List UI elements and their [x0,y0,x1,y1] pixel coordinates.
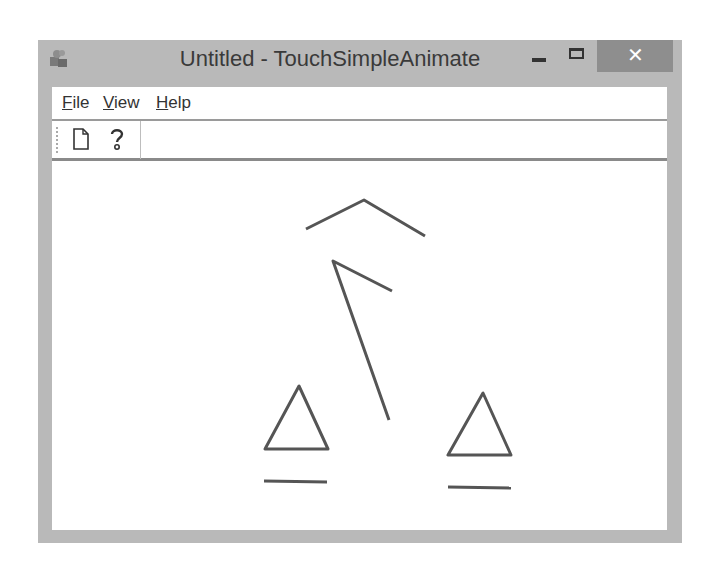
menu-view-mnemonic: V [103,93,114,112]
menu-file-label: ile [72,93,89,112]
minimize-icon [532,58,546,62]
menu-help[interactable]: Help [156,93,191,113]
underline-left [264,481,327,482]
menu-help-mnemonic: H [156,93,168,112]
menu-file[interactable]: File [62,93,89,113]
triangle-right [448,393,511,455]
menu-bar: File View Help [52,87,667,121]
maximize-icon [569,48,584,59]
toolbar-separator [140,121,141,159]
drawing-canvas[interactable] [52,161,667,530]
menu-view-label: iew [114,93,140,112]
menu-help-label: elp [168,93,191,112]
arrow-stroke [333,261,392,420]
toolbar-grip[interactable] [56,127,60,153]
new-button[interactable] [68,125,94,153]
close-button[interactable]: ✕ [597,40,673,72]
client-area: File View Help [52,87,667,530]
maximize-button[interactable] [560,40,596,72]
menu-view[interactable]: View [103,93,140,113]
new-document-icon [68,125,94,153]
triangle-left [265,386,328,449]
menu-file-mnemonic: F [62,93,72,112]
chevron-top [306,200,425,236]
title-bar[interactable]: Untitled - TouchSimpleAnimate ✕ [38,40,682,86]
drawing-surface [52,161,667,530]
toolbar [52,121,667,161]
about-button[interactable] [104,125,130,153]
help-icon [104,125,130,153]
minimize-button[interactable] [520,40,560,72]
close-icon: ✕ [627,44,644,66]
app-window: Untitled - TouchSimpleAnimate ✕ File Vie… [38,40,682,543]
underline-right [448,487,511,488]
